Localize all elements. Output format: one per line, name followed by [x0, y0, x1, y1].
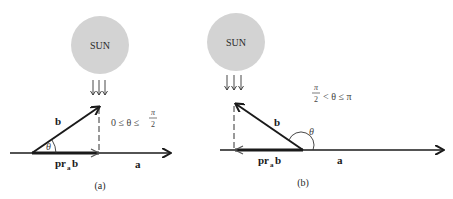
- vector-b-label: b: [274, 116, 280, 128]
- panel-b: SUN θ b a pr a b π 2: [207, 13, 443, 189]
- panel-a: SUN θ b a pr a b 0 ≤ θ ≤ π: [10, 16, 170, 192]
- sun-label: SUN: [226, 37, 246, 48]
- sun-rays-icon: [91, 80, 108, 95]
- angle-condition: 0 ≤ θ ≤ π 2: [111, 108, 157, 129]
- angle-condition: π 2 < θ ≤ π: [312, 83, 351, 104]
- angle-label: θ: [46, 141, 51, 152]
- vector-a-label: a: [337, 154, 343, 166]
- sun-rays-icon: [225, 75, 244, 90]
- svg-text:π: π: [314, 83, 319, 92]
- svg-text:π: π: [151, 108, 156, 117]
- svg-text:2: 2: [314, 95, 318, 104]
- caption-a: (a): [94, 180, 105, 192]
- caption-b: (b): [297, 177, 309, 189]
- svg-text:< θ ≤ π: < θ ≤ π: [323, 91, 351, 102]
- projection-label: pr a b: [258, 154, 281, 169]
- svg-text:0 ≤ θ ≤: 0 ≤ θ ≤: [111, 117, 140, 128]
- projection-diagram: SUN θ b a pr a b 0 ≤ θ ≤ π: [0, 0, 453, 199]
- svg-text:2: 2: [151, 120, 155, 129]
- sun-label: SUN: [90, 40, 110, 51]
- vector-b: [32, 107, 99, 153]
- svg-text:pr: pr: [55, 157, 66, 169]
- angle-label: θ: [309, 126, 314, 137]
- svg-text:a: a: [270, 161, 274, 169]
- svg-text:b: b: [72, 157, 78, 169]
- svg-text:a: a: [67, 164, 71, 172]
- angle-arc: [52, 140, 56, 153]
- projection-label: pr a b: [55, 157, 78, 172]
- vector-a-label: a: [135, 158, 141, 170]
- svg-text:pr: pr: [258, 154, 269, 166]
- svg-text:b: b: [275, 154, 281, 166]
- vector-b-label: b: [55, 115, 61, 127]
- vector-b: [236, 104, 303, 150]
